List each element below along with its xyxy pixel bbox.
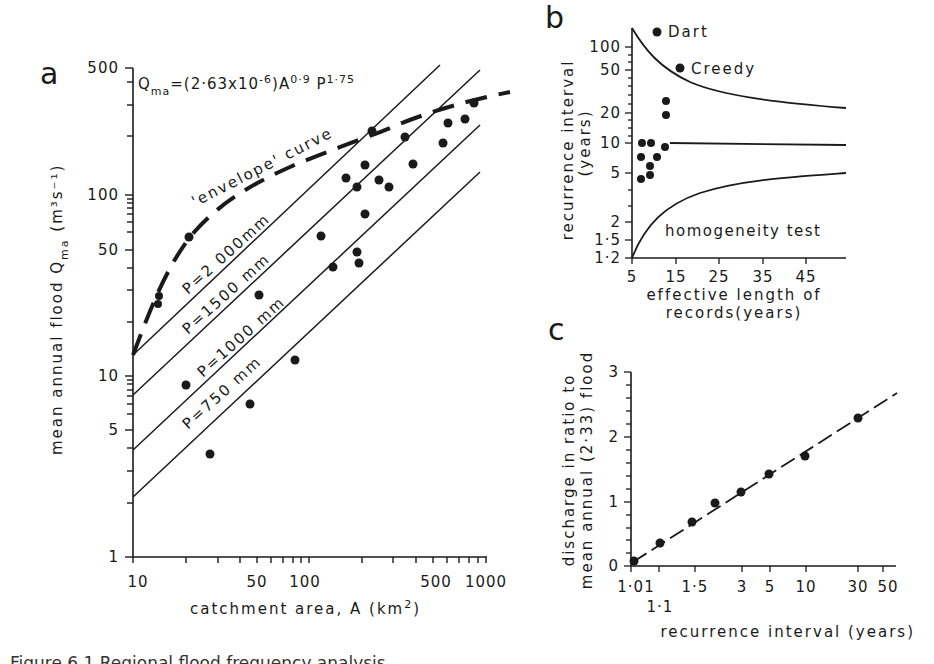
panel-a-letter: a [40,56,58,91]
label-homogeneity-test: homogeneity test [665,222,821,240]
panel-c-xtick-10: 10 [795,578,816,596]
figure-canvas: a [0,0,934,664]
panel-b-y-title-1: recurrence interval [559,60,577,241]
panel-c-letter: c [548,312,565,347]
panel-a-xtick-100: 100 [289,573,321,591]
panel-b-ytick-50: 50 [600,61,621,79]
panel-c-xtick-1-01: 1·01 [617,578,654,596]
panel-c-ytick-0: 0 [608,557,619,575]
panel-c-xtick-3: 3 [737,578,748,596]
panel-a-y-ticks [125,68,133,557]
panel-b-ytick-1-2: 1·2 [594,249,621,267]
label-creedy: Creedy [691,60,756,78]
panel-a-xtick-1000: 1000 [465,573,507,591]
panel-a: a [40,56,510,618]
panel-c-xtick-5: 5 [765,578,776,596]
panel-a-xtick-500: 500 [420,573,452,591]
panel-a-ytick-500: 500 [87,59,119,77]
panel-b-y-title-2: (years) [576,110,594,177]
panel-c-xtick-50: 50 [877,578,898,596]
panel-b-xtick-15: 15 [665,268,686,286]
panel-b-x-title-2: records(years) [666,304,803,322]
panel-b-xtick-25: 25 [708,268,729,286]
panel-c-xtick-30: 30 [847,578,868,596]
panel-c-y-title-2: mean annual (2·33) flood [578,351,596,589]
panel-c: c 3 [548,312,915,641]
panel-b-x-title-1: effective length of [646,286,821,304]
panel-b-mean-line [670,143,846,145]
panel-c-xtick-1-5: 1·5 [682,578,709,596]
envelope-label: 'envelope' curve [189,124,336,211]
panel-b-xtick-35: 35 [752,268,773,286]
panel-b-xtick-45: 45 [795,268,816,286]
panel-a-y-title: mean annual flood Qma (m³s⁻¹) [48,164,71,455]
panel-c-y-title-1: discharge in ratio to [560,374,578,567]
panel-c-ytick-2: 2 [608,428,619,446]
panel-a-xtick-50: 50 [246,573,267,591]
panel-b-ytick-20: 20 [600,104,621,122]
line-p750 [133,172,480,497]
panel-b-xtick-5: 5 [627,268,638,286]
panel-a-xtick-10: 10 [127,573,148,591]
panel-a-x-title: catchment area, A (km2) [190,598,421,618]
panel-b-points [637,28,685,184]
panel-c-ytick-3: 3 [608,363,619,381]
panel-b-ytick-1-5: 1·5 [594,231,621,249]
panel-a-equation: Qma=(2·63x10-6)A0·9 P1·75 [138,73,355,98]
panel-c-ytick-1: 1 [608,493,619,511]
line-p2000 [133,65,440,355]
panel-b-ytick-100: 100 [589,38,621,56]
panel-a-ytick-5: 5 [108,421,119,439]
panel-a-ytick-50: 50 [98,241,119,259]
panel-b: b 100 [545,0,846,322]
figure-caption: Figure 6.1 Regional flood frequency anal… [0,648,934,664]
panel-a-ytick-1: 1 [108,548,119,566]
line-p1500 [133,70,480,395]
panel-a-ytick-100: 100 [87,186,119,204]
panel-b-ytick-2: 2 [610,213,621,231]
panel-c-xtick-1-1: 1·1 [647,598,674,616]
panel-b-lower-curve [632,173,846,258]
panel-a-ytick-10: 10 [98,367,119,385]
panel-a-x-ticks [133,557,486,563]
panel-b-ytick-5: 5 [610,164,621,182]
panel-c-x-title: recurrence interval (years) [661,623,915,641]
panel-b-letter: b [545,0,564,35]
label-dart: Dart [668,23,709,41]
panel-b-ytick-10: 10 [600,134,621,152]
